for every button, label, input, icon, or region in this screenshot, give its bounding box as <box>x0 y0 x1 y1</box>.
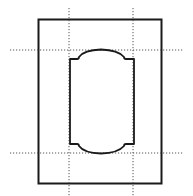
template-diagram <box>0 0 193 196</box>
label-shape <box>70 50 134 154</box>
guide-lines <box>10 8 184 196</box>
outer-frame <box>39 20 162 184</box>
